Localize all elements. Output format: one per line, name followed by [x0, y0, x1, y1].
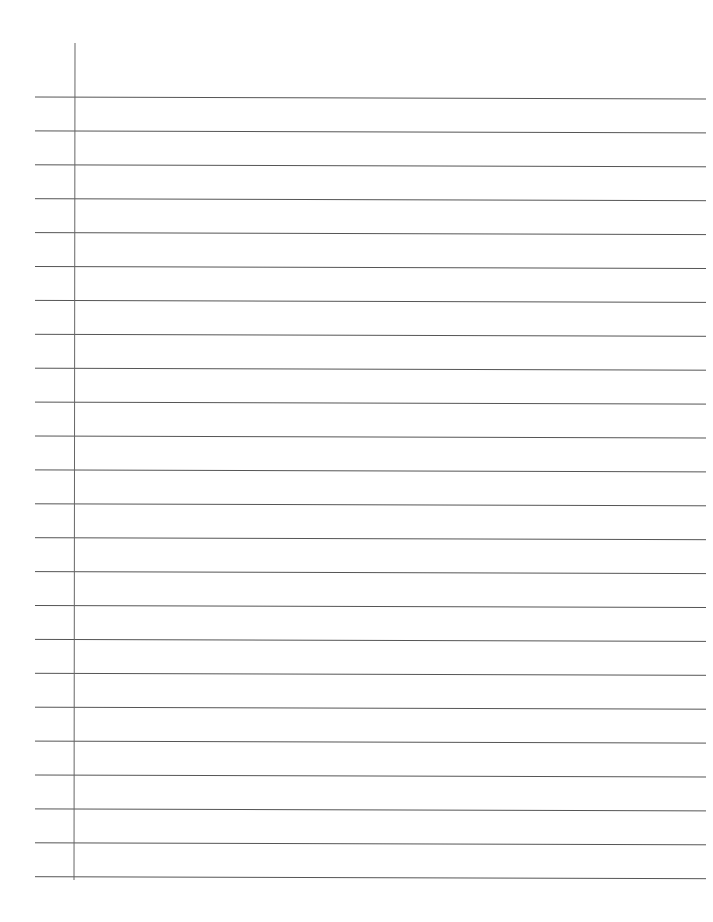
- lined-paper-page: [0, 0, 713, 922]
- ruled-line: [35, 199, 706, 201]
- ruled-line: [35, 741, 706, 743]
- ruled-line: [35, 639, 706, 641]
- ruled-line: [35, 673, 706, 675]
- ruled-line: [35, 402, 706, 404]
- ruled-line: [35, 165, 706, 167]
- ruled-line: [35, 877, 706, 879]
- ruled-line: [35, 267, 706, 269]
- ruled-line: [35, 470, 706, 472]
- ruled-line: [35, 538, 706, 540]
- ruled-line: [35, 233, 706, 235]
- ruled-line: [35, 843, 706, 845]
- ruled-line: [35, 775, 706, 777]
- ruled-line: [35, 504, 706, 506]
- ruled-line: [35, 809, 706, 811]
- ruled-line: [35, 300, 706, 302]
- ruled-lines: [0, 0, 713, 922]
- ruled-line: [35, 572, 706, 574]
- margin-line: [74, 43, 75, 880]
- ruled-line: [35, 334, 706, 336]
- ruled-line: [35, 436, 706, 438]
- ruled-line: [35, 97, 706, 99]
- ruled-line: [35, 368, 706, 370]
- ruled-line: [35, 131, 706, 133]
- ruled-line: [35, 606, 706, 608]
- ruled-line: [35, 707, 706, 709]
